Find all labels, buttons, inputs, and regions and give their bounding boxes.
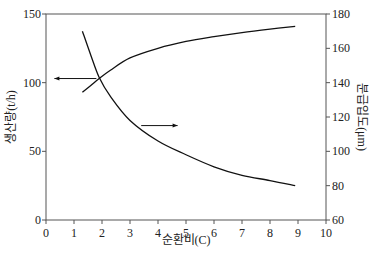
x-tick-label: 0: [43, 226, 49, 240]
right-y-tick-label: 60: [332, 213, 344, 227]
series-line: [82, 31, 295, 186]
left-y-tick-label: 0: [35, 213, 41, 227]
right-y-tick-label: 100: [332, 144, 350, 158]
right-y-axis-label: 분급입도(μm): [355, 83, 369, 151]
series-line: [82, 26, 295, 92]
x-tick-label: 2: [99, 226, 105, 240]
left-y-tick-label: 100: [23, 76, 41, 90]
right-y-axis-ticks: 6080100120140160180: [326, 7, 350, 227]
right-y-tick-label: 160: [332, 41, 350, 55]
arrow-head-icon: [173, 124, 178, 128]
right-y-tick-label: 80: [332, 179, 344, 193]
x-tick-label: 7: [239, 226, 245, 240]
right-y-tick-label: 180: [332, 7, 350, 21]
x-tick-label: 9: [295, 226, 301, 240]
left-y-tick-label: 50: [29, 144, 41, 158]
left-y-axis-label: 생산량(t/h): [4, 90, 18, 144]
x-tick-label: 8: [267, 226, 273, 240]
axis-indicator-arrows: [54, 77, 177, 128]
series-curves: [82, 26, 295, 185]
x-tick-label: 10: [320, 226, 332, 240]
plot-frame: [46, 14, 326, 220]
left-y-axis-ticks: 050100150: [23, 7, 46, 227]
right-y-tick-label: 140: [332, 76, 350, 90]
arrow-head-icon: [54, 77, 59, 81]
x-tick-label: 4: [155, 226, 161, 240]
right-y-tick-label: 120: [332, 110, 350, 124]
dual-axis-line-chart: 012345678910 050100150 60801001201401601…: [0, 0, 374, 269]
x-tick-label: 3: [127, 226, 133, 240]
x-tick-label: 6: [211, 226, 217, 240]
left-y-tick-label: 150: [23, 7, 41, 21]
x-axis-label: 순환비(C): [162, 233, 211, 247]
x-tick-label: 1: [71, 226, 77, 240]
